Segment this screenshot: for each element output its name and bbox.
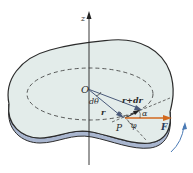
z-label: z [80, 14, 86, 23]
force-label: F [160, 122, 168, 132]
rotation-diagram: z O dθ r r+dr α φ P F [0, 0, 193, 173]
phi-label: φ [131, 121, 137, 130]
z-axis-arrowhead [87, 11, 92, 19]
r-plus-dr-label: r+dr [122, 95, 144, 105]
point-p-label: P [115, 123, 123, 133]
origin-label: O [81, 84, 89, 95]
alpha-label: α [142, 109, 148, 118]
dtheta-label: dθ [89, 97, 99, 106]
rotation-arrowhead [182, 122, 187, 130]
